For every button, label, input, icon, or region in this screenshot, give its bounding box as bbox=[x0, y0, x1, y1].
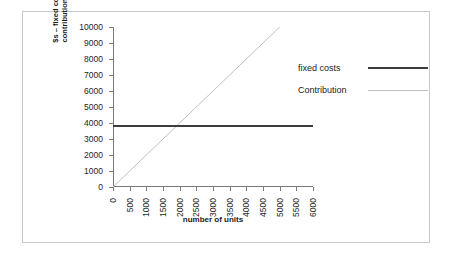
x-axis-tick: 5500 bbox=[296, 187, 297, 191]
series-line-contribution bbox=[113, 27, 313, 187]
x-axis-tick: 3500 bbox=[230, 187, 231, 191]
x-axis-tick-label: 6000 bbox=[309, 198, 318, 217]
y-axis-tick-label: 8000 bbox=[84, 55, 103, 64]
series-line-fixed-costs bbox=[113, 125, 313, 127]
legend-item-fixed-costs: fixed costs bbox=[298, 57, 428, 79]
y-axis-tick-label: 0 bbox=[98, 183, 103, 192]
y-axis-tick-label: 5000 bbox=[84, 103, 103, 112]
legend-label-fixed-costs: fixed costs bbox=[298, 63, 368, 73]
x-axis-tick: 4500 bbox=[263, 187, 264, 191]
x-axis-tick-label: 1000 bbox=[142, 198, 151, 217]
x-axis-tick: 2000 bbox=[180, 187, 181, 191]
y-axis-tick-label: 4000 bbox=[84, 119, 103, 128]
x-axis-tick: 5000 bbox=[280, 187, 281, 191]
chart-legend: fixed costs Contribution bbox=[298, 57, 428, 101]
x-axis-tick-label: 500 bbox=[125, 198, 134, 212]
y-axis-tick-label: 1000 bbox=[84, 167, 103, 176]
y-axis-tick-label: 3000 bbox=[84, 135, 103, 144]
x-axis-tick-label: 0 bbox=[109, 198, 118, 203]
x-axis-tick: 6000 bbox=[313, 187, 314, 191]
x-axis-tick-label: 4500 bbox=[259, 198, 268, 217]
x-axis-tick-label: 2500 bbox=[192, 198, 201, 217]
chart-figure-frame: $s – fixed costs and contribution/margin… bbox=[22, 11, 430, 243]
x-axis-tick: 4000 bbox=[246, 187, 247, 191]
y-axis-title: $s – fixed costs and contribution/margin bbox=[51, 0, 70, 62]
y-axis-tick-label: 10000 bbox=[79, 23, 103, 32]
x-axis-tick-label: 4000 bbox=[242, 198, 251, 217]
legend-item-contribution: Contribution bbox=[298, 79, 428, 101]
x-axis-tick: 2500 bbox=[196, 187, 197, 191]
x-axis-tick-label: 1500 bbox=[159, 198, 168, 217]
plot-area: 0100020003000400050006000700080009000100… bbox=[113, 27, 313, 187]
x-axis-tick: 3000 bbox=[213, 187, 214, 191]
y-axis-tick-label: 2000 bbox=[84, 151, 103, 160]
y-axis-tick-label: 6000 bbox=[84, 87, 103, 96]
legend-swatch-contribution bbox=[368, 90, 428, 91]
legend-swatch-fixed-costs bbox=[368, 67, 428, 69]
x-axis-tick: 0 bbox=[113, 187, 114, 191]
legend-label-contribution: Contribution bbox=[298, 85, 368, 95]
x-axis-tick-label: 3000 bbox=[209, 198, 218, 217]
x-axis-tick-label: 5000 bbox=[275, 198, 284, 217]
y-axis-tick-label: 7000 bbox=[84, 71, 103, 80]
x-axis-tick: 1000 bbox=[146, 187, 147, 191]
x-axis-tick-label: 5500 bbox=[292, 198, 301, 217]
x-axis-tick-label: 2000 bbox=[175, 198, 184, 217]
x-axis-tick: 500 bbox=[130, 187, 131, 191]
x-axis-tick: 1500 bbox=[163, 187, 164, 191]
y-axis-tick-label: 9000 bbox=[84, 39, 103, 48]
x-axis-tick-label: 3500 bbox=[225, 198, 234, 217]
